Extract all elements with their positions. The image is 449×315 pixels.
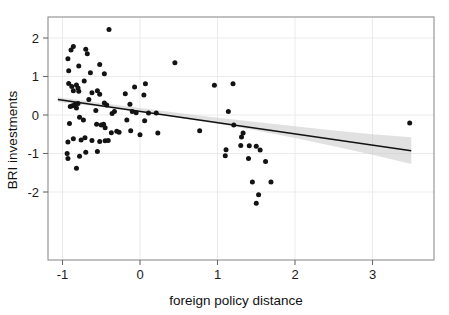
y-tick-label: 1 [32, 69, 39, 84]
data-point [212, 83, 217, 88]
data-point [250, 179, 255, 184]
data-point [127, 102, 132, 107]
data-point [77, 154, 82, 159]
data-point [132, 84, 137, 89]
y-axis-title: BRI investments [5, 91, 20, 190]
data-point [172, 60, 177, 65]
y-tick-label: -2 [27, 185, 39, 200]
x-tick-label: 2 [291, 267, 298, 282]
data-point [65, 139, 70, 144]
data-point [106, 138, 111, 143]
data-point [254, 144, 259, 149]
data-point [246, 156, 251, 161]
data-point [82, 79, 87, 84]
data-point [89, 90, 94, 95]
x-tick-label: -1 [57, 267, 69, 282]
data-point [97, 139, 102, 144]
data-point [85, 51, 90, 56]
fit-line [58, 100, 411, 151]
data-point [86, 97, 91, 102]
data-point [142, 118, 147, 123]
data-point [223, 153, 228, 158]
data-point [407, 121, 412, 126]
data-point [67, 121, 72, 126]
data-point [268, 179, 273, 184]
data-point [89, 138, 94, 143]
data-point [263, 159, 268, 164]
y-tick-label: -1 [27, 146, 39, 161]
regression-line [58, 100, 411, 151]
data-point [76, 89, 81, 94]
data-point [258, 148, 263, 153]
data-point [247, 143, 252, 148]
data-point [224, 147, 229, 152]
data-point [65, 56, 70, 61]
data-point [97, 92, 102, 97]
data-point [74, 106, 79, 111]
data-point [65, 156, 70, 161]
figure-container: -10123 -2-1012 foreign policy distance B… [0, 0, 449, 315]
data-point [83, 150, 88, 155]
y-tick-label: 2 [32, 31, 39, 46]
data-points [65, 27, 413, 206]
y-tick-label: 0 [32, 108, 39, 123]
data-point [81, 118, 86, 123]
data-point [128, 128, 133, 133]
data-point [138, 132, 143, 137]
data-point [82, 135, 87, 140]
data-point [97, 62, 102, 67]
data-point [88, 70, 93, 75]
data-point [226, 109, 231, 114]
data-point [93, 108, 98, 113]
data-point [95, 149, 100, 154]
data-point [94, 122, 99, 127]
data-point [83, 47, 88, 52]
data-point [231, 81, 236, 86]
data-point [123, 91, 128, 96]
data-point [117, 130, 122, 135]
x-tick-label: 0 [136, 267, 143, 282]
data-point [256, 192, 261, 197]
data-point [107, 27, 112, 32]
data-point [197, 128, 202, 133]
x-axis-title: foreign policy distance [169, 293, 303, 308]
data-point [238, 143, 243, 148]
data-point [155, 131, 160, 136]
data-point [102, 71, 107, 76]
y-axis-ticks: -2-1012 [27, 31, 48, 200]
data-point [65, 151, 70, 156]
data-point [66, 68, 71, 73]
x-tick-label: 3 [369, 267, 376, 282]
data-point [71, 88, 76, 93]
data-point [103, 125, 108, 130]
data-point [124, 118, 129, 123]
data-point [241, 131, 246, 136]
data-point [254, 201, 259, 206]
data-point [76, 64, 81, 69]
data-point [109, 130, 114, 135]
x-tick-label: 1 [214, 267, 221, 282]
data-point [112, 109, 117, 114]
data-point [143, 81, 148, 86]
scatter-plot: -10123 -2-1012 foreign policy distance B… [0, 0, 449, 315]
data-point [74, 166, 79, 171]
data-point [141, 92, 146, 97]
data-point [71, 136, 76, 141]
data-point [69, 47, 74, 52]
x-axis-ticks: -10123 [57, 260, 376, 282]
